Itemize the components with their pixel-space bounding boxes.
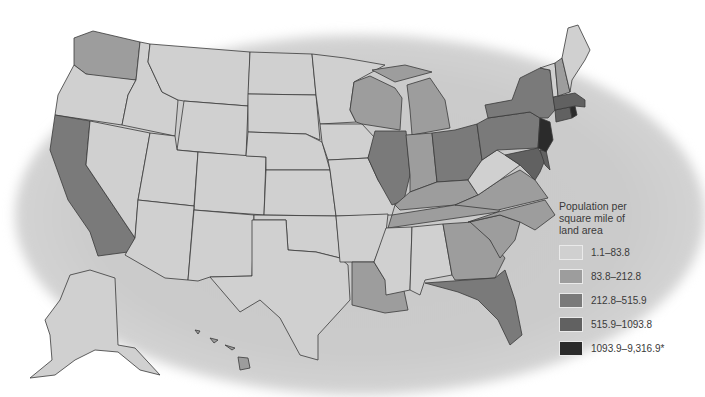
state-ND: [248, 52, 316, 95]
legend-swatch: [559, 293, 583, 308]
state-AK: [30, 270, 160, 378]
state-IA: [320, 124, 375, 160]
legend-label: 1.1–83.8: [591, 247, 630, 258]
legend-title-line: Population per: [559, 200, 693, 212]
legend-title-line: square mile of: [559, 212, 693, 224]
state-WY: [177, 101, 248, 156]
state-IN: [406, 133, 437, 192]
legend-title-line: land area: [559, 224, 693, 236]
state-WI: [350, 76, 402, 130]
legend-swatch: [559, 245, 583, 260]
legend-item: 83.8–212.8: [559, 268, 693, 285]
legend-label: 83.8–212.8: [591, 271, 641, 282]
state-FL: [425, 270, 522, 345]
state-NM: [188, 210, 254, 281]
state-NY: [485, 68, 555, 118]
state-KS: [264, 170, 336, 216]
legend-swatch: [559, 269, 583, 284]
legend-label: 515.9–1093.8: [591, 319, 652, 330]
legend-label: 212.8–515.9: [591, 295, 647, 306]
legend-swatch: [559, 317, 583, 332]
legend-item: 1.1–83.8: [559, 244, 693, 261]
state-CO: [194, 152, 266, 215]
legend-title: Population per square mile of land area: [559, 200, 693, 236]
state-NJ: [538, 118, 553, 152]
legend-swatch: [559, 341, 583, 356]
legend-item: 212.8–515.9: [559, 292, 693, 309]
legend-item: 515.9–1093.8: [559, 316, 693, 333]
state-HI: [195, 330, 250, 370]
legend-item: 1093.9–9,316.9*: [559, 340, 693, 357]
legend-label: 1093.9–9,316.9*: [591, 343, 664, 354]
legend: Population per square mile of land area …: [559, 200, 693, 364]
